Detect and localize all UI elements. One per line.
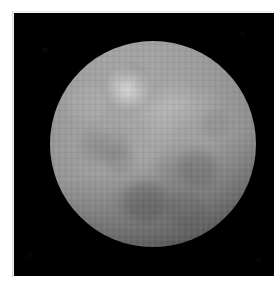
black-sky-frame — [14, 13, 274, 276]
planet-disk — [50, 41, 256, 247]
disk-phase-shading — [50, 41, 256, 247]
figure-root — [0, 0, 274, 293]
